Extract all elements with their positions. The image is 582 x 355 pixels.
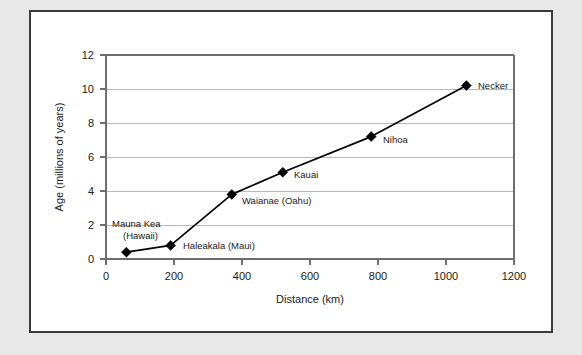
marker-kauai[interactable]	[278, 167, 288, 177]
y-tick-labels: 12 10 8 6 4 2 0	[82, 49, 94, 265]
x-tick-marks	[106, 259, 514, 265]
y-tick-label-12: 12	[82, 49, 94, 61]
annotation-mauna-kea-line2: (Hawaii)	[123, 230, 158, 241]
y-tick-marks	[100, 55, 106, 259]
x-tick-labels: 0 200 400 600 800 1000 1200	[103, 270, 526, 282]
annotation-kauai: Kauai	[294, 169, 318, 180]
x-tick-label-1200: 1200	[502, 270, 526, 282]
y-tick-label-10: 10	[82, 83, 94, 95]
annotation-haleakala: Haleakala (Maui)	[183, 240, 255, 251]
marker-mauna-kea[interactable]	[121, 247, 131, 257]
y-tick-label-8: 8	[88, 117, 94, 129]
x-tick-label-200: 200	[165, 270, 183, 282]
marker-nihoa[interactable]	[366, 132, 376, 142]
figure-panel: 12 10 8 6 4 2 0 0 200 400 600 800 1000 1…	[29, 10, 553, 333]
chart-svg: 12 10 8 6 4 2 0 0 200 400 600 800 1000 1…	[31, 12, 551, 331]
chart-canvas: 12 10 8 6 4 2 0 0 200 400 600 800 1000 1…	[31, 12, 551, 331]
x-tick-label-400: 400	[233, 270, 251, 282]
annotation-nihoa: Nihoa	[383, 134, 409, 145]
y-tick-label-0: 0	[88, 253, 94, 265]
annotation-mauna-kea-line1: Mauna Kea	[112, 218, 161, 229]
x-tick-label-0: 0	[103, 270, 109, 282]
x-tick-label-1000: 1000	[434, 270, 458, 282]
annotation-waianae: Waianae (Oahu)	[242, 195, 311, 206]
y-tick-label-6: 6	[88, 151, 94, 163]
y-tick-label-4: 4	[88, 185, 94, 197]
x-tick-label-800: 800	[369, 270, 387, 282]
annotation-necker: Necker	[478, 80, 508, 91]
y-tick-label-2: 2	[88, 219, 94, 231]
x-tick-label-600: 600	[301, 270, 319, 282]
x-axis-title: Distance (km)	[276, 293, 344, 305]
y-axis-title: Age (millions of years)	[53, 103, 65, 212]
